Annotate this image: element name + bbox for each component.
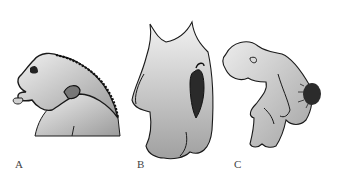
panel-label-a: A bbox=[15, 158, 23, 170]
panel-b-illustration bbox=[132, 22, 213, 159]
panel-label-c: C bbox=[234, 158, 241, 170]
figure-illustration bbox=[0, 0, 338, 183]
panel-c-illustration bbox=[223, 42, 321, 147]
panel-label-b: B bbox=[137, 158, 144, 170]
panel-a-illustration bbox=[13, 53, 120, 136]
